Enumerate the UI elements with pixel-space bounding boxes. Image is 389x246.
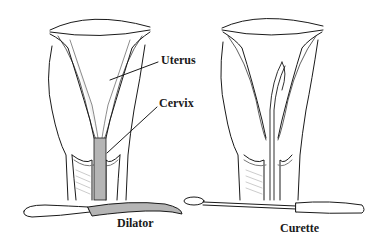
cervix-leader-line [107,107,157,153]
label-dilator: Dilator [117,216,154,231]
dilator-inserted [94,138,106,200]
right-uterus [221,18,323,200]
dilator-instrument [24,203,182,217]
label-uterus: Uterus [161,53,196,68]
uterus-leader-line [110,62,158,80]
diagram-canvas: Uterus Cervix Dilator Curette [0,0,389,246]
illustration [0,0,389,246]
label-cervix: Cervix [159,96,194,111]
label-curette: Curette [280,221,319,236]
